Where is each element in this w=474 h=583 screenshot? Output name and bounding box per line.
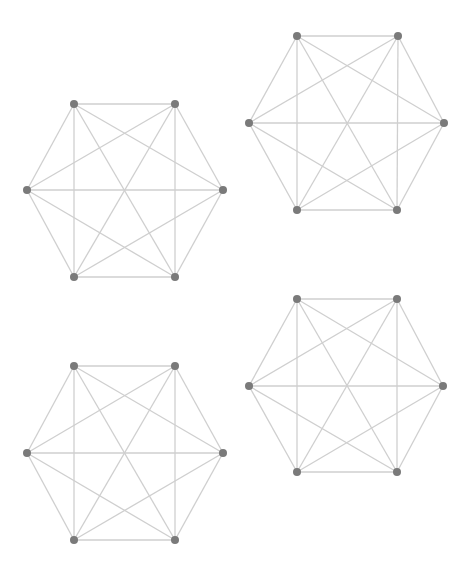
node-L [23, 449, 31, 457]
edge-R-BL [297, 123, 444, 210]
edge-TR-L [27, 366, 175, 453]
edge-TR-R [175, 104, 223, 190]
edge-L-BR [249, 386, 397, 472]
node-BR [171, 273, 179, 281]
node-BL [293, 206, 301, 214]
node-TL [70, 100, 78, 108]
node-R [440, 119, 448, 127]
node-BL [70, 273, 78, 281]
graph-bottom-right [245, 295, 447, 476]
edge-L-BR [27, 190, 175, 277]
node-L [245, 382, 253, 390]
node-TR [393, 295, 401, 303]
node-R [219, 186, 227, 194]
node-BR [393, 468, 401, 476]
node-BL [70, 536, 78, 544]
edge-group [27, 366, 223, 540]
edge-L-BR [249, 123, 397, 210]
node-TL [293, 295, 301, 303]
edge-group [249, 299, 443, 472]
node-TR [171, 362, 179, 370]
edge-BL-L [27, 190, 74, 277]
edge-L-BR [27, 453, 175, 540]
edge-L-TL [249, 36, 297, 123]
edge-R-BL [297, 386, 443, 472]
edge-R-BL [74, 190, 223, 277]
edge-TL-R [297, 299, 443, 386]
edge-BL-L [27, 453, 74, 540]
edge-TR-L [249, 299, 397, 386]
edge-TR-R [175, 366, 223, 453]
edge-L-TL [249, 299, 297, 386]
edge-BL-L [249, 386, 297, 472]
edge-R-BR [397, 123, 444, 210]
edge-TR-L [27, 104, 175, 190]
edge-BL-L [249, 123, 297, 210]
edge-group [249, 36, 444, 210]
edge-R-BR [175, 453, 223, 540]
edge-L-TL [27, 104, 74, 190]
node-R [439, 382, 447, 390]
node-R [219, 449, 227, 457]
edge-TL-R [74, 104, 223, 190]
graph-diagram-canvas [0, 0, 474, 583]
graph-top-right [245, 32, 448, 214]
edge-R-BR [175, 190, 223, 277]
node-TL [293, 32, 301, 40]
node-BR [171, 536, 179, 544]
edge-TR-L [249, 36, 398, 123]
node-L [245, 119, 253, 127]
edge-group [27, 104, 223, 277]
edge-R-BL [74, 453, 223, 540]
graph-top-left [23, 100, 227, 281]
edge-TL-R [74, 366, 223, 453]
node-TR [171, 100, 179, 108]
node-TR [394, 32, 402, 40]
edge-TL-R [297, 36, 444, 123]
node-L [23, 186, 31, 194]
edge-L-TL [27, 366, 74, 453]
node-BL [293, 468, 301, 476]
graph-bottom-left [23, 362, 227, 544]
node-BR [393, 206, 401, 214]
node-TL [70, 362, 78, 370]
